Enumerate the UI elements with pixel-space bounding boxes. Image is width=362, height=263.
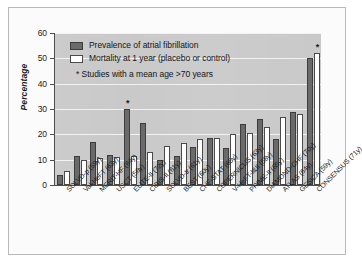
- y-tick-label-20: 20: [7, 130, 47, 138]
- y-tick-mark-0: [50, 185, 54, 186]
- legend-label-mortality: Mortality at 1 year (placebo or control): [89, 53, 230, 64]
- y-tick-label-10: 10: [7, 156, 47, 164]
- legend-item-mortality: Mortality at 1 year (placebo or control): [70, 53, 280, 65]
- legend-swatch-prevalence: [70, 42, 83, 50]
- y-tick-mark-10: [50, 160, 54, 161]
- bar-mortality: [314, 53, 320, 185]
- legend-footnote: * Studies with a mean age >70 years: [70, 69, 280, 80]
- y-tick-label-0: 0: [7, 181, 47, 189]
- bar-annotation-asterisk: *: [123, 100, 133, 106]
- legend-label-prevalence: Prevalence of atrial fibrillation: [89, 40, 198, 51]
- legend-swatch-mortality: [70, 55, 83, 63]
- bar-prevalence: [57, 175, 63, 185]
- x-axis-labels: SOLVD-p (59y)Val-HeFT (63y)MERIT-HF (64y…: [55, 186, 321, 256]
- y-tick-mark-50: [50, 58, 54, 59]
- y-tick-mark-30: [50, 109, 54, 110]
- y-tick-mark-60: [50, 33, 54, 34]
- y-tick-mark-20: [50, 134, 54, 135]
- chart-legend: Prevalence of atrial fibrillation Mortal…: [70, 40, 280, 80]
- legend-item-prevalence: Prevalence of atrial fibrillation: [70, 40, 280, 52]
- y-tick-mark-40: [50, 84, 54, 85]
- bar-annotation-asterisk: *: [313, 44, 323, 50]
- y-axis-title: Percentage: [19, 52, 29, 122]
- y-tick-label-60: 60: [7, 29, 47, 37]
